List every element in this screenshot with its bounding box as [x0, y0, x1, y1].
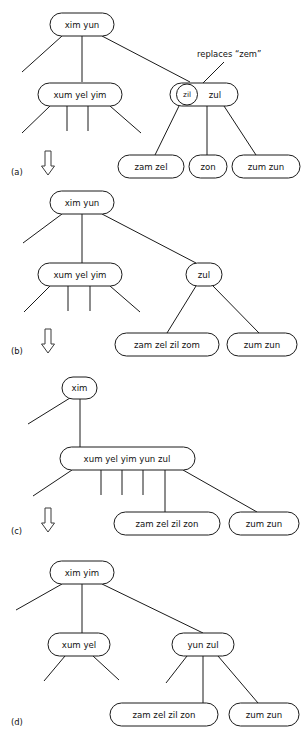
edge-d-root-left — [16, 584, 62, 610]
node-b-leaf-zam-zel-zil-zom: zam zel zil zom — [115, 333, 219, 356]
node-a-l1-label: xum yel yim — [54, 90, 107, 100]
node-d-leaf-zam-zel-zil-zon: zam zel zil zon — [110, 703, 218, 726]
edge-b-r1-c2 — [213, 286, 259, 333]
node-d-xum-yel: xum yel — [48, 633, 110, 656]
node-a-root: xim yun — [50, 13, 114, 36]
node-d-root: xim yim — [50, 561, 114, 584]
node-d-root-label: xim yim — [65, 568, 99, 578]
node-b-leaf1-label: zam zel zil zom — [134, 340, 200, 350]
node-a-leaf1-label: zam zel — [134, 162, 167, 172]
edge-c-root-left — [28, 398, 70, 424]
node-a-leaf-zon: zon — [189, 155, 227, 178]
edge-a-l1-c4 — [110, 106, 141, 133]
node-c-leaf2-label: zum zun — [246, 519, 282, 529]
node-c-leaf-zam-zel-zil-zon: zam zel zil zon — [114, 512, 220, 535]
edge-b-root-left — [23, 214, 62, 243]
node-d-yun-zul: yun zul — [172, 633, 234, 656]
edge-d-l1-c2 — [93, 656, 119, 680]
edge-d-r1-c3 — [218, 656, 258, 703]
edge-d-l1-c1 — [44, 656, 65, 681]
panel-c: xim xum yel yim yun zul zam zel zil zon … — [11, 377, 299, 536]
node-c-xum-yel-yim-yun-zul: xum yel yim yun zul — [60, 447, 195, 470]
edge-a-root-left — [22, 36, 62, 72]
panel-a: replaces “zem” xim yun xum yel yim zil z… — [11, 13, 300, 178]
edge-b-r1-c1 — [167, 286, 196, 333]
node-c-root-label: xim — [72, 383, 88, 393]
node-a-r1-zul-label: zul — [209, 90, 221, 100]
edge-b-l1-c4 — [110, 286, 140, 312]
edge-a-root-right — [102, 36, 190, 82]
transition-arrow-b — [42, 329, 55, 353]
node-a-leaf-zam-zel: zam zel — [118, 155, 184, 178]
edge-d-root-right — [102, 584, 203, 633]
panel-label-c: (c) — [11, 526, 22, 536]
edge-a-r1-c3 — [224, 106, 256, 155]
node-c-root: xim — [62, 377, 97, 399]
node-c-leaf-zum-zun: zum zun — [229, 512, 299, 535]
annotation-replaces-zem: replaces “zem” — [197, 49, 261, 59]
btree-split-sequence-figure: replaces “zem” xim yun xum yel yim zil z… — [0, 0, 303, 742]
node-a-zil-zul: zil zul — [170, 83, 238, 106]
edge-b-root-right — [102, 214, 196, 263]
node-b-zul: zul — [186, 263, 222, 286]
edge-a-l1-c1 — [22, 106, 50, 133]
edge-c-l1-c1 — [33, 470, 72, 496]
transition-arrow-c — [42, 508, 55, 532]
node-a-xum-yel-yim: xum yel yim — [38, 83, 122, 106]
node-b-root-label: xim yun — [65, 198, 100, 208]
edge-d-r1-c1 — [166, 656, 187, 683]
transition-arrow-a — [42, 151, 55, 175]
node-d-r1-label: yun zul — [187, 640, 218, 650]
node-d-l1-label: xum yel — [62, 640, 96, 650]
node-a-leaf3-label: zum zun — [248, 162, 284, 172]
node-b-xum-yel-yim: xum yel yim — [38, 263, 122, 286]
panel-label-d: (d) — [11, 717, 23, 727]
node-a-root-label: xim yun — [65, 20, 100, 30]
node-d-leaf1-label: zam zel zil zon — [132, 710, 195, 720]
edge-a-r1-c1 — [155, 106, 179, 155]
panel-label-a: (a) — [11, 167, 23, 177]
edge-c-l1-c6 — [183, 470, 257, 512]
node-b-leaf-zum-zun: zum zun — [227, 333, 297, 356]
node-a-leaf-zum-zun: zum zun — [232, 155, 300, 178]
panel-label-b: (b) — [11, 346, 23, 356]
node-a-r1-zil-label: zil — [183, 90, 191, 99]
panel-b: xim yun xum yel yim zul zam zel zil zom … — [11, 191, 297, 356]
node-b-r1-label: zul — [198, 270, 210, 280]
node-d-leaf2-label: zum zun — [246, 710, 282, 720]
node-b-leaf2-label: zum zun — [244, 340, 280, 350]
node-c-leaf1-label: zam zel zil zon — [135, 519, 198, 529]
node-b-l1-label: xum yel yim — [54, 270, 107, 280]
node-c-l1-label: xum yel yim yun zul — [84, 454, 171, 464]
node-a-leaf2-label: zon — [200, 162, 215, 172]
node-d-leaf-zum-zun: zum zun — [229, 703, 299, 726]
panel-d: xim yim xum yel yun zul zam zel zil zon … — [11, 561, 299, 727]
edge-b-l1-c1 — [24, 286, 50, 312]
node-b-root: xim yun — [50, 191, 114, 214]
